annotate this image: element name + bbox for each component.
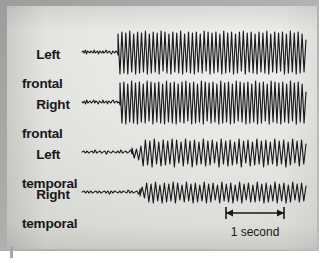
eeg-trace-canvas [0, 0, 331, 263]
scale-bar [226, 207, 284, 219]
eeg-figure: Left frontal Right frontal Left temporal… [0, 0, 331, 263]
scale-bar-left-arrowhead [226, 209, 233, 216]
eeg-trace-right-frontal [82, 81, 306, 124]
eeg-trace-left-frontal [82, 31, 306, 74]
eeg-trace-right-temporal [82, 182, 306, 203]
eeg-trace-left-temporal [82, 139, 306, 167]
scale-bar-caption: 1 second [216, 226, 294, 238]
scale-bar-right-arrowhead [277, 209, 284, 216]
